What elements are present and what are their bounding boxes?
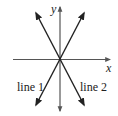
coordinate-diagram: y x line 1 line 2 [0, 0, 118, 116]
line-1-label: line 1 [17, 81, 44, 93]
line-2-label: line 2 [80, 81, 107, 93]
y-axis-label: y [51, 3, 56, 15]
diagram-canvas [0, 0, 118, 116]
x-axis-label: x [106, 62, 111, 74]
